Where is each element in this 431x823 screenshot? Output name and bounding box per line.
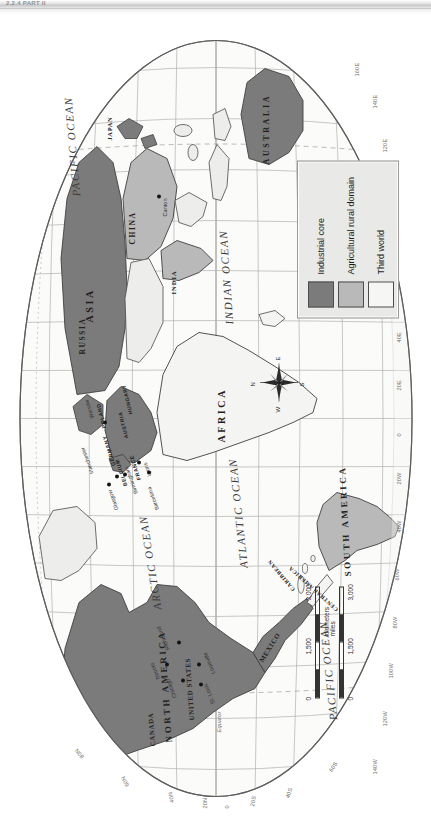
city-dot-manchester bbox=[115, 474, 119, 478]
page-header-text: 2.2.4 PART II bbox=[6, 0, 46, 6]
graticule-lon-140e: 140E bbox=[373, 94, 379, 108]
compass-label-east: E bbox=[275, 356, 281, 360]
scale-seg bbox=[340, 614, 343, 642]
country-label-china: CHINA bbox=[129, 211, 137, 244]
page-header-strip: 2.2.4 PART II bbox=[0, 0, 431, 14]
compass-label-south: S bbox=[299, 382, 305, 386]
scale-seg bbox=[340, 642, 343, 670]
figure-page: 2.2.4 PART II bbox=[0, 0, 431, 823]
graticule-lon-20w: 20W bbox=[397, 472, 403, 484]
country-label-india: INDIA bbox=[171, 270, 178, 294]
graticule-lon-60w: 60W bbox=[395, 568, 401, 580]
graticule-lat-0: 0 bbox=[225, 805, 231, 808]
city-dot-louisville bbox=[197, 662, 201, 666]
country-label-japan: JAPAN bbox=[107, 116, 114, 140]
compass-rose: N S W E bbox=[257, 360, 301, 404]
scale-tick-km-3000: 3,000 bbox=[305, 584, 312, 600]
graticule-equator-label: Equator bbox=[217, 711, 223, 732]
compass-label-north: N bbox=[250, 382, 256, 386]
rotated-figure-wrapper: ARCTIC OCEAN PACIFIC OCEAN ATLANTIC OCEA… bbox=[0, 14, 431, 823]
legend-item-third-world[interactable]: Third world bbox=[368, 229, 394, 307]
scale-seg bbox=[340, 669, 343, 697]
scale-tick-mi-1500: 1,500 bbox=[347, 638, 354, 654]
scale-tick-mi-0: 0 bbox=[347, 696, 354, 700]
legend-label-agricultural-rural-domain: Agricultural rural domain bbox=[346, 176, 356, 274]
graticule-lon-100w: 100W bbox=[389, 663, 395, 678]
city-label-canton: Canton bbox=[163, 198, 169, 216]
legend-swatch-third-world bbox=[368, 281, 394, 307]
header-rule bbox=[0, 8, 431, 9]
graticule-lon-160e: 160E bbox=[355, 62, 361, 76]
graticule-lon-20e: 20E bbox=[397, 379, 403, 390]
city-dot-richmond bbox=[177, 640, 181, 644]
graticule-lon-80w: 80W bbox=[393, 616, 399, 628]
legend-item-agricultural-rural-domain[interactable]: Agricultural rural domain bbox=[338, 176, 364, 307]
scale-bar-kilometers bbox=[315, 586, 320, 698]
scale-bar-miles bbox=[339, 586, 344, 698]
country-label-russia: RUSSIA bbox=[79, 317, 87, 354]
city-dot-toronto bbox=[165, 662, 169, 666]
city-dot-canton bbox=[157, 194, 161, 198]
graticule-lon-40w: 40W bbox=[397, 520, 403, 532]
city-dot-glasgow bbox=[107, 482, 111, 486]
city-dot-lyons bbox=[137, 460, 141, 464]
city-dot-warsaw bbox=[103, 420, 107, 424]
scale-seg bbox=[316, 642, 319, 670]
continent-label-africa: AFRICA bbox=[217, 388, 227, 443]
world-map-figure: ARCTIC OCEAN PACIFIC OCEAN ATLANTIC OCEA… bbox=[11, 21, 421, 816]
legend-item-industrial-core[interactable]: Industrial core bbox=[308, 217, 334, 307]
graticule-lat-20s: 20S bbox=[250, 795, 257, 806]
scale-bar-group: 0 1,500 3,000 kilometers 0 1,500 3,000 m… bbox=[305, 574, 355, 698]
scale-tick-mi-3000: 3,000 bbox=[347, 584, 354, 600]
legend-swatch-agricultural-rural-domain bbox=[338, 281, 364, 307]
scale-unit-miles: miles bbox=[329, 621, 336, 636]
city-dot-chicago bbox=[181, 678, 185, 682]
scale-seg bbox=[316, 669, 319, 697]
map-legend: Industrial core Agricultural rural domai… bbox=[297, 160, 399, 318]
city-dot-barcelona bbox=[147, 470, 151, 474]
scale-seg bbox=[340, 587, 343, 614]
graticule-lon-120e: 120E bbox=[383, 138, 389, 152]
scale-tick-km-0: 0 bbox=[305, 696, 312, 700]
scale-seg bbox=[316, 614, 319, 642]
compass-label-west: W bbox=[275, 406, 281, 412]
legend-label-industrial-core: Industrial core bbox=[316, 217, 326, 274]
scale-seg bbox=[316, 587, 319, 614]
graticule-lon-120w: 120W bbox=[383, 711, 389, 726]
graticule-lon-0: 0 bbox=[397, 433, 403, 436]
graticule-lat-20n: 20N bbox=[203, 797, 209, 808]
continent-label-australia: AUSTRALIA bbox=[263, 93, 271, 164]
graticule-lon-40e: 40E bbox=[397, 331, 403, 342]
scale-tick-km-1500: 1,500 bbox=[305, 638, 312, 654]
graticule-lon-140w: 140W bbox=[373, 759, 379, 774]
legend-label-third-world: Third world bbox=[376, 229, 386, 274]
legend-swatch-industrial-core bbox=[308, 281, 334, 307]
